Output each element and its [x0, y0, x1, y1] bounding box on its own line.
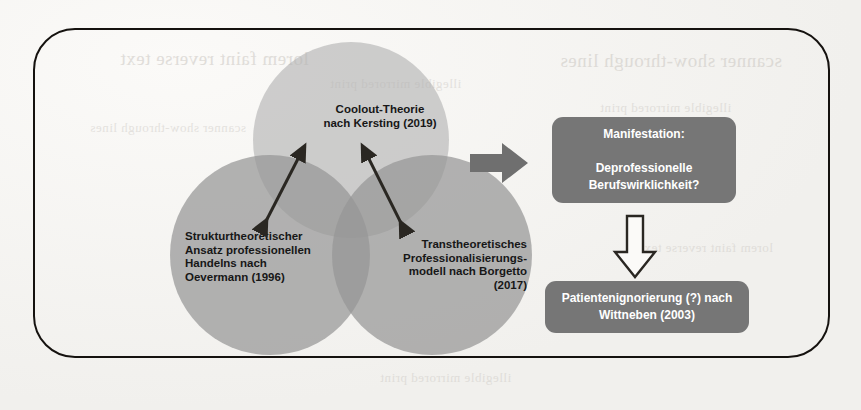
box-patientenignorierung: Patientenignorierung (?) nach Wittneben … — [545, 281, 749, 333]
venn-label-transtheoretisch: Transtheoretisches Professionalisierungs… — [355, 238, 527, 292]
right-block-arrow-icon — [468, 140, 530, 186]
venn-label-strukturtheoretisch: Strukturtheoretischer Ansatz professione… — [185, 230, 345, 284]
bleed-through-text: illegible mirrored print — [380, 370, 511, 386]
down-hollow-arrow-icon — [612, 214, 658, 280]
venn-label-coolout: Coolout-Theorie nach Kersting (2019) — [295, 103, 465, 130]
box-manifestation: Manifestation: Deprofessionelle Berufswi… — [552, 117, 736, 203]
venn-diagram: Coolout-Theorie nach Kersting (2019) Str… — [150, 35, 530, 365]
